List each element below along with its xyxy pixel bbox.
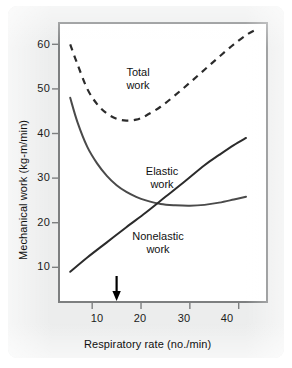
optimum-rate-arrow-icon [112, 276, 120, 301]
series-line-total-work [70, 29, 258, 121]
series-line-nonelastic-work [70, 138, 246, 272]
y-axis-ticks [52, 44, 58, 267]
series-line-elastic-work [70, 98, 246, 206]
figure-root: 60 50 40 30 20 10 10 20 30 40 Mechanical… [0, 0, 292, 368]
chart-vector-layer [0, 0, 292, 368]
x-axis-ticks [92, 303, 239, 309]
